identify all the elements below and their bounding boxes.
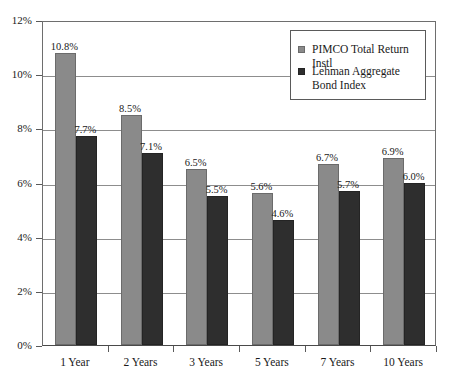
bar-value-label: 10.8% — [45, 41, 84, 52]
bar-value-label: 7.1% — [132, 141, 171, 152]
legend-swatch-dark-icon — [298, 68, 305, 75]
x-axis-category-label: 1 Year — [42, 356, 108, 369]
bar-value-label: 6.9% — [373, 146, 412, 157]
bar — [207, 196, 228, 345]
bar-value-label: 6.5% — [176, 157, 215, 168]
y-axis-tick-label: 0% — [17, 340, 32, 351]
bar-value-label: 5.6% — [242, 181, 281, 192]
x-axis-tick-mark — [108, 346, 109, 352]
bar — [142, 153, 163, 345]
x-axis-category-label: 10 Years — [370, 356, 436, 369]
y-axis-tick-label: 10% — [12, 69, 32, 80]
x-axis-category-label: 5 Years — [239, 356, 305, 369]
x-axis-tick-mark — [173, 346, 174, 352]
bar-value-label: 4.6% — [263, 208, 302, 219]
bar — [55, 53, 76, 346]
y-axis-tick-label: 4% — [17, 232, 32, 243]
gridline — [43, 239, 435, 240]
x-axis-tick-mark — [305, 346, 306, 352]
x-axis-category-label: 3 Years — [173, 356, 239, 369]
bar — [273, 220, 294, 345]
x-axis-tick-mark — [239, 346, 240, 352]
bar-chart: 0%2%4%6%8%10%12% 10.8%7.7%8.5%7.1%6.5%5.… — [0, 0, 450, 382]
bar-value-label: 7.7% — [66, 124, 105, 135]
bar — [76, 136, 97, 345]
y-axis-tick-label: 12% — [12, 15, 32, 26]
bar — [383, 158, 404, 345]
bar — [404, 183, 425, 346]
gridline — [43, 293, 435, 294]
bar-value-label: 6.7% — [308, 152, 347, 163]
bar-value-label: 5.5% — [197, 184, 236, 195]
x-axis-category-label: 2 Years — [108, 356, 174, 369]
bar — [318, 164, 339, 345]
bar-value-label: 5.7% — [329, 179, 368, 190]
gridline — [43, 185, 435, 186]
x-axis-category-label: 7 Years — [305, 356, 371, 369]
y-axis-tick-label: 8% — [17, 123, 32, 134]
legend-label-lehman: Lehman Aggregate Bond Index — [312, 64, 424, 92]
y-axis-tick-label: 2% — [17, 286, 32, 297]
bar-value-label: 8.5% — [111, 103, 150, 114]
y-axis-tick-mark — [36, 346, 42, 347]
chart-legend: PIMCO Total Return Instl Lehman Aggregat… — [290, 30, 426, 100]
x-axis-tick-mark — [370, 346, 371, 352]
legend-entry-lehman: Lehman Aggregate Bond Index — [298, 64, 424, 92]
bar — [186, 169, 207, 345]
legend-swatch-gray-icon — [298, 46, 305, 53]
x-axis-tick-mark — [436, 346, 437, 352]
bar — [339, 191, 360, 345]
y-axis-tick-label: 6% — [17, 178, 32, 189]
bar-value-label: 6.0% — [394, 171, 433, 182]
